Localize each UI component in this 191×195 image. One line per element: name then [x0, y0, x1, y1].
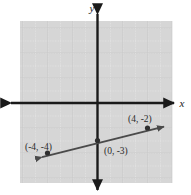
x-axis-label: x: [179, 97, 185, 109]
point-label-right: (4, -2): [128, 114, 152, 125]
point-marker-middle: [95, 138, 100, 143]
point-marker-right: [145, 125, 150, 130]
y-axis-label: y: [89, 2, 95, 14]
point-label-middle: (0, -3): [104, 146, 128, 157]
coordinate-plane-figure: y x (-4, -4) (0, -3) (4, -2): [0, 0, 191, 195]
graph-canvas: y x (-4, -4) (0, -3) (4, -2): [0, 0, 191, 195]
point-label-left: (-4, -4): [25, 142, 52, 153]
